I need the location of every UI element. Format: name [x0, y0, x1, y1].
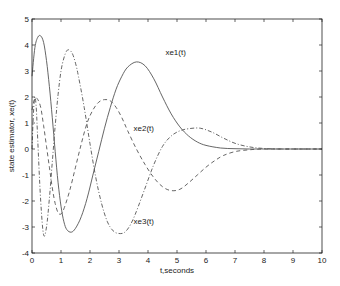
- y-tick-label: 0: [25, 145, 30, 154]
- y-tick-label: -2: [22, 197, 30, 206]
- y-tick-label: 4: [25, 41, 30, 50]
- series-line-xe3t: [32, 50, 322, 237]
- y-tick-label: -1: [22, 171, 30, 180]
- x-tick-label: 4: [146, 256, 151, 265]
- series-label: xe3(t): [134, 217, 155, 226]
- x-tick-label: 3: [117, 256, 122, 265]
- y-tick-label: 2: [25, 93, 30, 102]
- x-tick-label: 0: [30, 256, 35, 265]
- x-tick-label: 10: [318, 256, 327, 265]
- y-tick-label: 3: [25, 67, 30, 76]
- x-tick-label: 1: [59, 256, 64, 265]
- x-axis-label: t,seconds: [160, 266, 194, 275]
- series-label: xe2(t): [134, 124, 155, 133]
- y-tick-label: -4: [22, 249, 30, 258]
- y-tick-label: 5: [25, 15, 30, 24]
- y-axis-label: state estimator, xe(t): [7, 99, 16, 172]
- x-tick-label: 7: [233, 256, 238, 265]
- x-tick-label: 9: [291, 256, 296, 265]
- curves: xe1(t)xe2(t)xe3(t): [32, 35, 322, 236]
- x-tick-label: 5: [175, 256, 180, 265]
- y-tick-label: -3: [22, 223, 30, 232]
- x-tick-label: 2: [88, 256, 93, 265]
- y-tick-label: 1: [25, 119, 30, 128]
- series-label: xe1(t): [165, 48, 186, 57]
- x-tick-label: 6: [204, 256, 209, 265]
- x-tick-label: 8: [262, 256, 267, 265]
- series-line-xe2t: [32, 98, 322, 215]
- line-chart: xe1(t)xe2(t)xe3(t) 012345678910-4-3-2-10…: [0, 0, 340, 286]
